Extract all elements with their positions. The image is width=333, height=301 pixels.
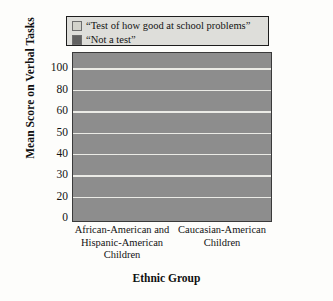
chart-legend: “Test of how good at school problems” “N… <box>66 16 269 46</box>
x-axis-category-labels: African-American and Hispanic-American C… <box>72 224 272 262</box>
bar-series-container <box>73 53 271 221</box>
y-tick-label: 0 <box>38 211 68 223</box>
legend-label: “Test of how good at school problems” <box>86 20 250 31</box>
y-tick-label: 20 <box>38 190 68 202</box>
legend-item: “Not a test” <box>72 33 264 46</box>
legend-swatch-light <box>72 21 82 31</box>
y-tick-label: 50 <box>38 126 68 138</box>
y-tick-label: 80 <box>38 83 68 95</box>
category-label-line: Children <box>72 249 172 262</box>
y-axis-title: Mean Score on Verbal Tasks <box>24 3 36 173</box>
chart-figure: “Test of how good at school problems” “N… <box>0 0 333 301</box>
x-axis-title: Ethnic Group <box>0 272 333 284</box>
category-label: African-American and Hispanic-American C… <box>72 224 172 262</box>
y-tick-label: 30 <box>38 168 68 180</box>
category-label: Caucasian-American Children <box>172 224 272 262</box>
legend-swatch-dark <box>72 35 82 45</box>
category-label-line: Hispanic-American <box>72 237 172 250</box>
category-label-line: Caucasian-American <box>172 224 272 237</box>
legend-item: “Test of how good at school problems” <box>72 19 264 32</box>
legend-label: “Not a test” <box>86 34 136 45</box>
category-label-line: African-American and <box>72 224 172 237</box>
plot-area <box>72 52 272 222</box>
y-axis-tick-labels: 100 80 60 50 40 30 20 0 <box>38 52 68 222</box>
category-label-line: Children <box>172 237 272 250</box>
y-tick-label: 100 <box>38 61 68 73</box>
y-tick-label: 40 <box>38 147 68 159</box>
y-tick-label: 60 <box>38 104 68 116</box>
